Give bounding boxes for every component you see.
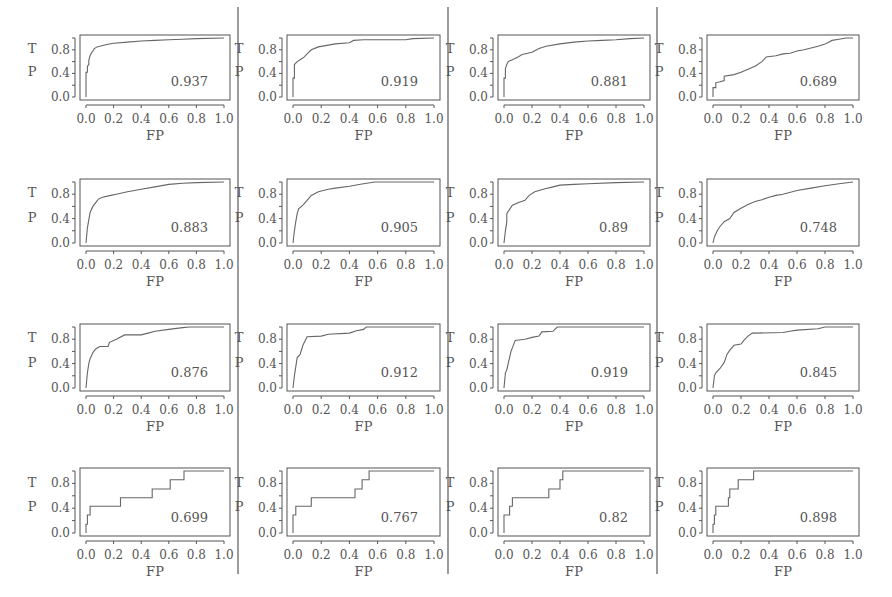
y-axis-label: T (235, 185, 244, 200)
y-tick-label: 0.8 (258, 332, 277, 346)
x-tick-label: 0.0 (76, 258, 95, 272)
x-axis-label: FP (774, 564, 792, 579)
y-axis-label: P (235, 210, 244, 225)
y-axis-label: P (446, 355, 455, 370)
roc-panel: 0.00.40.8TP0.00.20.40.60.81.0FP0.919 (235, 35, 444, 143)
x-tick-label: 0.4 (550, 548, 569, 562)
roc-panels: 0.00.40.8TP0.00.20.40.60.81.0FP0.9370.00… (28, 35, 863, 579)
y-tick-label: 0.4 (678, 501, 697, 515)
x-tick-label: 0.0 (76, 112, 95, 126)
y-axis-label: T (446, 475, 455, 490)
y-axis-label: P (655, 210, 664, 225)
x-tick-label: 0.8 (815, 403, 834, 417)
x-axis-label: FP (146, 128, 164, 143)
roc-panel: 0.00.40.8TP0.00.20.40.60.81.0FP0.883 (28, 179, 234, 289)
y-axis-label: P (28, 355, 37, 370)
y-tick-label: 0.0 (678, 90, 697, 104)
y-axis-label: T (655, 330, 664, 345)
x-tick-label: 0.4 (759, 112, 778, 126)
y-axis-label: P (446, 499, 455, 514)
x-tick-label: 0.4 (340, 112, 359, 126)
auc-value: 0.881 (591, 74, 628, 89)
plot-frame (707, 179, 859, 246)
x-tick-label: 0.4 (132, 258, 151, 272)
y-tick-label: 0.8 (51, 476, 70, 490)
x-tick-label: 0.2 (731, 403, 750, 417)
y-axis-label: T (446, 330, 455, 345)
roc-panel: 0.00.40.8TP0.00.20.40.60.81.0FP0.845 (655, 324, 863, 434)
x-tick-label: 1.0 (634, 403, 653, 417)
y-axis-label: T (28, 330, 37, 345)
x-tick-label: 0.0 (494, 258, 513, 272)
y-tick-label: 0.0 (258, 236, 277, 250)
x-tick-label: 0.4 (759, 548, 778, 562)
x-tick-label: 1.0 (424, 403, 443, 417)
y-tick-label: 0.8 (51, 43, 70, 57)
x-tick-label: 0.6 (578, 112, 597, 126)
x-tick-label: 0.6 (159, 112, 178, 126)
roc-panel: 0.00.40.8TP0.00.20.40.60.81.0FP0.912 (235, 324, 444, 434)
y-tick-label: 0.4 (469, 66, 488, 80)
auc-value: 0.898 (800, 510, 837, 525)
x-tick-label: 0.0 (76, 403, 95, 417)
y-tick-label: 0.4 (51, 357, 70, 371)
y-tick-label: 0.8 (51, 332, 70, 346)
x-tick-label: 1.0 (634, 112, 653, 126)
x-axis-label: FP (565, 128, 583, 143)
y-tick-label: 0.8 (678, 187, 697, 201)
plot-frame (80, 179, 230, 246)
x-tick-label: 0.2 (522, 258, 541, 272)
roc-panel: 0.00.40.8TP0.00.20.40.60.81.0FP0.699 (28, 468, 234, 579)
plot-frame (498, 35, 650, 100)
x-tick-label: 0.6 (368, 548, 387, 562)
x-tick-label: 0.2 (312, 112, 331, 126)
roc-panel: 0.00.40.8TP0.00.20.40.60.81.0FP0.937 (28, 35, 234, 143)
y-tick-label: 0.4 (258, 66, 277, 80)
y-axis-label: P (446, 64, 455, 79)
y-tick-label: 0.4 (469, 212, 488, 226)
y-tick-label: 0.4 (678, 212, 697, 226)
x-tick-label: 0.2 (731, 548, 750, 562)
x-tick-label: 0.4 (340, 258, 359, 272)
x-axis-label: FP (774, 419, 792, 434)
y-axis-label: T (655, 185, 664, 200)
auc-value: 0.876 (171, 365, 208, 380)
y-tick-label: 0.0 (258, 526, 277, 540)
x-tick-label: 0.8 (187, 112, 206, 126)
x-axis-label: FP (565, 419, 583, 434)
x-tick-label: 1.0 (424, 258, 443, 272)
x-tick-label: 1.0 (424, 548, 443, 562)
y-axis-label: P (446, 210, 455, 225)
y-tick-label: 0.4 (258, 501, 277, 515)
x-axis-label: FP (146, 274, 164, 289)
x-axis-label: FP (565, 274, 583, 289)
x-tick-label: 0.8 (187, 403, 206, 417)
y-tick-label: 0.8 (258, 476, 277, 490)
x-tick-label: 0.0 (283, 548, 302, 562)
x-tick-label: 1.0 (843, 258, 862, 272)
x-tick-label: 0.4 (759, 403, 778, 417)
x-tick-label: 0.8 (187, 258, 206, 272)
y-tick-label: 0.0 (469, 236, 488, 250)
y-axis-label: P (235, 355, 244, 370)
x-tick-label: 0.2 (522, 403, 541, 417)
roc-panel: 0.00.40.8TP0.00.20.40.60.81.0FP0.89 (446, 179, 654, 289)
plot-frame (287, 35, 440, 100)
y-tick-label: 0.0 (51, 381, 70, 395)
x-axis-label: FP (565, 564, 583, 579)
y-axis-label: T (655, 475, 664, 490)
x-tick-label: 0.8 (396, 548, 415, 562)
y-tick-label: 0.4 (51, 66, 70, 80)
x-tick-label: 0.0 (76, 548, 95, 562)
x-tick-label: 0.2 (731, 112, 750, 126)
plot-frame (80, 35, 230, 100)
y-tick-label: 0.8 (469, 43, 488, 57)
roc-panel: 0.00.40.8TP0.00.20.40.60.81.0FP0.919 (446, 324, 654, 434)
x-tick-label: 1.0 (634, 548, 653, 562)
x-axis-label: FP (146, 564, 164, 579)
x-tick-label: 0.8 (606, 258, 625, 272)
x-tick-label: 0.2 (104, 112, 123, 126)
y-tick-label: 0.0 (51, 90, 70, 104)
auc-value: 0.883 (171, 220, 208, 235)
plot-frame (287, 324, 440, 391)
